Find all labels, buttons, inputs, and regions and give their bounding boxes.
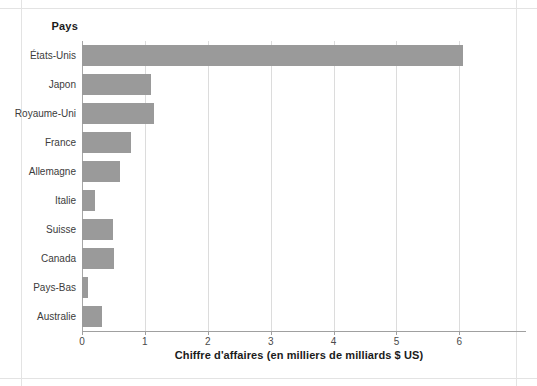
bar	[82, 248, 114, 269]
x-tick-label: 3	[256, 336, 286, 347]
x-tick-label: 1	[130, 336, 160, 347]
x-tick-mark-5	[396, 331, 397, 335]
category-label: Australie	[0, 311, 76, 322]
bar-row: Italie	[0, 190, 537, 211]
x-axis-title: Chiffre d'affaires (en milliers de milli…	[82, 349, 516, 361]
category-label: Canada	[0, 253, 76, 264]
x-tick-label: 0	[67, 336, 97, 347]
category-label: Royaume-Uni	[0, 108, 76, 119]
x-tick-mark-1	[145, 331, 146, 335]
bar-row: Canada	[0, 248, 537, 269]
category-label: Allemagne	[0, 166, 76, 177]
bar	[82, 132, 131, 153]
x-tick-label: 5	[381, 336, 411, 347]
bar	[82, 277, 88, 298]
category-label: Japon	[0, 79, 76, 90]
scan-edge-top	[0, 8, 537, 9]
category-label: Suisse	[0, 224, 76, 235]
x-tick-mark-0	[82, 331, 83, 335]
bar	[82, 219, 113, 240]
bar-row: États-Unis	[0, 45, 537, 66]
category-label: Pays-Bas	[0, 282, 76, 293]
x-tick-label: 6	[444, 336, 474, 347]
bar-row: Australie	[0, 306, 537, 327]
bar	[82, 190, 95, 211]
category-label: France	[0, 137, 76, 148]
x-tick-mark-6	[459, 331, 460, 335]
x-tick-label: 4	[319, 336, 349, 347]
bar	[82, 74, 151, 95]
chart-figure: Pays Chiffre d'affaires (en milliers de …	[0, 0, 537, 386]
bar	[82, 103, 154, 124]
bar	[82, 45, 463, 66]
x-tick-mark-3	[271, 331, 272, 335]
x-tick-mark-4	[334, 331, 335, 335]
category-label: États-Unis	[0, 50, 76, 61]
bar-row: Japon	[0, 74, 537, 95]
bar-row: Pays-Bas	[0, 277, 537, 298]
bar-row: Suisse	[0, 219, 537, 240]
x-tick-label: 2	[193, 336, 223, 347]
category-axis-header: Pays	[0, 20, 78, 32]
scan-edge-bottom	[0, 378, 537, 379]
bar-row: France	[0, 132, 537, 153]
bar-row: Royaume-Uni	[0, 103, 537, 124]
x-tick-mark-2	[208, 331, 209, 335]
category-label: Italie	[0, 195, 76, 206]
bar	[82, 306, 102, 327]
bar-row: Allemagne	[0, 161, 537, 182]
bar	[82, 161, 120, 182]
